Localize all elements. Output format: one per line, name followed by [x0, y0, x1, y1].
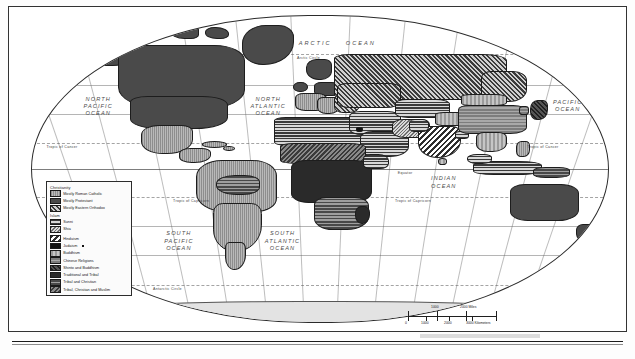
scan-artifact-smudge	[420, 334, 540, 338]
scale-tick	[449, 316, 450, 321]
ocean-label-line: PACIFIC	[141, 238, 216, 245]
legend-label: Shinto and Buddhism	[63, 266, 99, 270]
legend-item-shia[interactable]: Shia	[50, 226, 129, 233]
legend-swatch-buddhism	[50, 250, 61, 257]
land-baffin-island	[205, 27, 229, 39]
screenshot-root: NORTH PACIFIC OCEAN NORTH ATLANTIC OCEAN…	[0, 0, 635, 359]
ocean-label-line: NORTH	[231, 96, 306, 103]
ocean-label-line: PACIFIC	[61, 103, 136, 110]
land-banks-island	[141, 30, 161, 40]
land-european-russia-ukraine	[337, 83, 400, 107]
legend-group-header-islam: Islam	[50, 213, 129, 218]
ocean-label-line: OCEAN	[533, 106, 602, 113]
ocean-label-line: ATLANTIC	[231, 103, 306, 110]
scale-tick	[496, 311, 497, 321]
ocean-label-line: ARCTIC	[299, 40, 332, 46]
ocean-label-line: OCEAN	[231, 110, 306, 117]
land-scandinavia	[306, 59, 332, 80]
legend-label: Hinduism	[63, 237, 79, 241]
scale-tick	[437, 311, 438, 321]
legend-label: Mostly Roman Catholic	[63, 192, 102, 196]
legend-swatch-protestant	[50, 198, 61, 205]
ocean-label-line: INDIAN	[409, 175, 478, 182]
footer-text-clipped	[16, 348, 316, 356]
ocean-label-line: OCEAN	[245, 245, 320, 252]
legend-label: Mostly Eastern Orthodox	[63, 206, 105, 210]
legend-item-mostly-protestant[interactable]: Mostly Protestant	[50, 198, 129, 205]
ocean-label-south-pacific: SOUTH PACIFIC OCEAN	[141, 230, 216, 252]
ocean-label-line: ATLANTIC	[245, 238, 320, 245]
legend-swatch-tribal-christian-muslim	[50, 286, 61, 293]
legend-swatch-hinduism	[50, 235, 61, 242]
land-british-isles	[293, 82, 308, 92]
legend-item-tribal-christian-and-muslim[interactable]: Tribal, Christian and Muslim	[50, 286, 129, 293]
land-patagonia	[225, 242, 246, 270]
legend-item-mostly-eastern-orthodox[interactable]: Mostly Eastern Orthodox	[50, 205, 129, 212]
ocean-label-line: OCEAN	[346, 40, 376, 46]
legend-label: Shia	[63, 227, 71, 231]
ocean-label-line: NORTH	[61, 96, 136, 103]
scale-tick	[472, 316, 473, 321]
legend-label: Sunni	[63, 220, 73, 224]
land-central-america	[179, 148, 211, 163]
land-mainland-southeast-asia-buddhism	[476, 132, 507, 152]
legend-label: Judaism	[63, 244, 77, 248]
legend-swatch-sunni	[50, 219, 61, 226]
scale-axis-line	[408, 316, 496, 317]
land-new-zealand	[576, 224, 596, 241]
graticule-label-tropic-of-capricorn-right: Tropic of Capricorn	[395, 199, 431, 203]
legend-item-buddhism[interactable]: Buddhism	[50, 250, 129, 257]
page-divider-rule	[12, 341, 623, 342]
graticule-label-tropic-of-capricorn-left: Tropic of Capricorn	[173, 199, 209, 203]
land-sumatra-borneo-sunni	[467, 154, 492, 164]
scale-label-km-end: 3000 Kilometers	[466, 321, 491, 325]
legend-label: Mostly Protestant	[63, 199, 92, 203]
land-canadian-arctic	[170, 24, 199, 39]
ocean-label-line: SOUTH	[245, 230, 320, 237]
legend-judaism-point-symbol	[82, 245, 84, 247]
legend-label: Tribal and Christian	[63, 280, 96, 284]
scale-tick	[408, 311, 409, 321]
ocean-label-line: OCEAN	[61, 110, 136, 117]
scale-tick	[426, 316, 427, 321]
legend-swatch-tribal-christian	[50, 279, 61, 286]
land-horn-of-africa-sunni	[363, 154, 388, 169]
land-madagascar	[355, 206, 370, 224]
legend-swatch-chinese-religions	[50, 257, 61, 264]
scale-label-miles-end: 2000 Miles	[460, 305, 476, 309]
land-caribbean-hispaniola	[223, 146, 235, 151]
legend-label: Chinese Religions	[63, 259, 94, 263]
ocean-label-arctic: ARCTIC OCEAN	[274, 40, 401, 47]
legend-item-tribal-and-christian[interactable]: Tribal and Christian	[50, 279, 129, 286]
land-sri-lanka-buddhism	[438, 158, 447, 165]
legend-label: Tribal, Christian and Muslim	[63, 288, 110, 292]
scale-tick	[466, 311, 467, 321]
land-pakistan-sunni	[409, 119, 429, 132]
legend-item-traditional-and-tribal[interactable]: Traditional and Tribal	[50, 272, 129, 279]
scale-label-km-mid-2: 2000	[444, 321, 452, 325]
graticule-label-tropic-of-cancer-right: Tropic of Cancer	[527, 145, 558, 149]
scale-label-miles-mid: 1000	[431, 305, 439, 309]
legend-item-shinto-and-buddhism[interactable]: Shinto and Buddhism	[50, 265, 129, 272]
ocean-label-line: SOUTH	[141, 230, 216, 237]
legend-label: Traditional and Tribal	[63, 273, 98, 277]
map-legend: Christianity Mostly Roman Catholic Mostl…	[46, 181, 132, 296]
land-korea-chinese-religions	[519, 106, 529, 115]
ocean-label-north-pacific: NORTH PACIFIC OCEAN	[61, 96, 136, 118]
legend-label: Buddhism	[63, 251, 80, 255]
ocean-label-line: OCEAN	[141, 245, 216, 252]
legend-item-hinduism[interactable]: Hinduism	[50, 235, 129, 242]
legend-group-header-christianity: Christianity	[50, 185, 129, 190]
land-mongolia-buddhism	[461, 94, 507, 106]
legend-item-mostly-roman-catholic[interactable]: Mostly Roman Catholic	[50, 190, 129, 197]
legend-swatch-roman-catholic	[50, 190, 61, 197]
land-amazon-tribal-christian	[216, 175, 259, 195]
scale-label-km-zero: 0	[405, 321, 407, 325]
legend-item-judaism[interactable]: Judaism	[50, 243, 129, 250]
page-divider-rule-secondary	[12, 344, 623, 345]
land-australia	[510, 184, 579, 221]
ocean-label-south-atlantic: SOUTH ATLANTIC OCEAN	[245, 230, 320, 252]
legend-item-sunni[interactable]: Sunni	[50, 219, 129, 226]
legend-item-chinese-religions[interactable]: Chinese Religions	[50, 257, 129, 264]
map-scale-bar: 1000 2000 Miles 0 1000 2000 3000 Kilomet…	[404, 305, 512, 331]
